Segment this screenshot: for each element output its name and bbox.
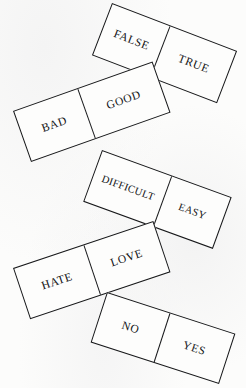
domino-label-good: GOOD [105,89,142,112]
domino-label-easy: EASY [177,202,207,222]
domino-label-love: LOVE [109,248,144,269]
domino-label-bad: BAD [40,115,68,135]
domino-chain-figure: FALSE TRUE BAD GOOD DIFFICULT EASY HATE … [0,0,246,388]
domino-label-no: NO [120,319,140,335]
domino-label-hate: HATE [40,271,74,292]
domino-label-difficult: DIFFICULT [100,174,156,203]
domino-tile-no-yes: NO YES [91,292,236,384]
domino-half-right: YES [154,313,234,383]
domino-label-false: FALSE [112,28,151,52]
domino-half-right: LOVE [83,222,169,294]
domino-label-yes: YES [181,339,207,357]
domino-half-right: GOOD [78,63,170,138]
domino-label-true: TRUE [176,53,210,75]
domino-tile-bad-good: BAD GOOD [13,62,171,162]
